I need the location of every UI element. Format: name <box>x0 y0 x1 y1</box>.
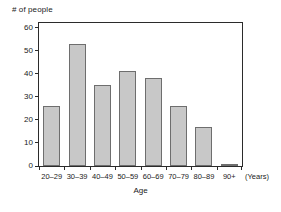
bar-slot <box>217 23 242 166</box>
bar-60-69[interactable] <box>145 78 162 166</box>
bar-slot <box>141 23 166 166</box>
bar-slot <box>39 23 64 166</box>
bar-90+[interactable] <box>221 164 238 166</box>
x-axis-tick-mark <box>90 167 91 170</box>
bar-20-29[interactable] <box>43 106 60 166</box>
bar-40-49[interactable] <box>94 85 111 166</box>
x-axis-tick-mark <box>166 167 167 170</box>
x-axis-units-label: (Years) <box>245 172 269 181</box>
bar-30-39[interactable] <box>69 44 86 166</box>
bar-80-89[interactable] <box>195 127 212 166</box>
x-axis-tick-label: 40–49 <box>90 172 115 181</box>
x-axis-tick-mark <box>191 167 192 170</box>
y-axis-tick-label: 50 <box>24 46 33 55</box>
x-axis-tick-mark <box>217 167 218 170</box>
bar-slot <box>64 23 89 166</box>
y-axis-tick-mark <box>35 166 38 167</box>
y-axis-tick-mark <box>35 27 38 28</box>
y-axis-tick-label: 20 <box>24 115 33 124</box>
bar-slot <box>90 23 115 166</box>
y-axis-tick-label: 0 <box>29 161 33 170</box>
bar-slot <box>115 23 140 166</box>
x-axis-title: Age <box>39 186 242 196</box>
y-axis-title: # of people <box>12 5 53 15</box>
y-axis-tick-mark <box>35 96 38 97</box>
y-axis-tick-mark <box>35 50 38 51</box>
x-axis-tick-label: 70–79 <box>166 172 191 181</box>
y-axis-tick-mark <box>35 119 38 120</box>
y-axis-tick-label: 10 <box>24 138 33 147</box>
x-axis-tick-label: 60–69 <box>141 172 166 181</box>
x-axis-ticks <box>39 167 242 171</box>
x-axis-tick-label: 30–39 <box>64 172 89 181</box>
bar-slot <box>166 23 191 166</box>
x-axis-tick-mark <box>115 167 116 170</box>
x-axis-tick-label: 50–59 <box>115 172 140 181</box>
x-axis-tick-mark <box>64 167 65 170</box>
x-axis-tick-mark <box>241 167 242 170</box>
bar-slot <box>191 23 216 166</box>
x-axis-tick-mark <box>141 167 142 170</box>
y-axis-tick-mark <box>35 142 38 143</box>
bars-container <box>39 23 242 166</box>
x-axis-tick-labels: 20–2930–3940–4950–5960–6970–7980–8990+ <box>39 172 242 181</box>
y-axis-tick-mark <box>35 73 38 74</box>
bar-70-79[interactable] <box>170 106 187 166</box>
x-axis-tick-mark <box>39 167 40 170</box>
bar-chart-figure: # of people 0102030405060 20–2930–3940–4… <box>0 0 281 212</box>
x-axis-tick-label: 80–89 <box>191 172 216 181</box>
x-axis-tick-label: 20–29 <box>39 172 64 181</box>
y-axis-tick-label: 40 <box>24 69 33 78</box>
y-axis-tick-label: 30 <box>24 92 33 101</box>
x-axis-tick-label: 90+ <box>217 172 242 181</box>
y-axis-tick-label: 60 <box>24 23 33 32</box>
bar-50-59[interactable] <box>119 71 136 166</box>
